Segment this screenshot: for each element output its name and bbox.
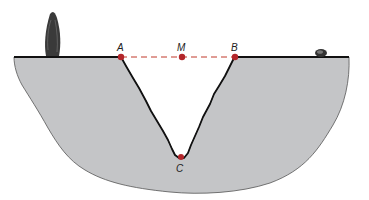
label-b: B xyxy=(231,42,238,53)
point-a xyxy=(118,54,124,60)
tree-icon xyxy=(45,12,60,56)
label-m: M xyxy=(177,42,186,53)
label-c: C xyxy=(176,163,184,174)
point-c xyxy=(178,154,184,160)
ravine-diagram: A M B C xyxy=(0,0,369,200)
bush-icon xyxy=(315,49,327,57)
label-a: A xyxy=(116,42,124,53)
point-b xyxy=(232,54,238,60)
point-m xyxy=(179,54,185,60)
